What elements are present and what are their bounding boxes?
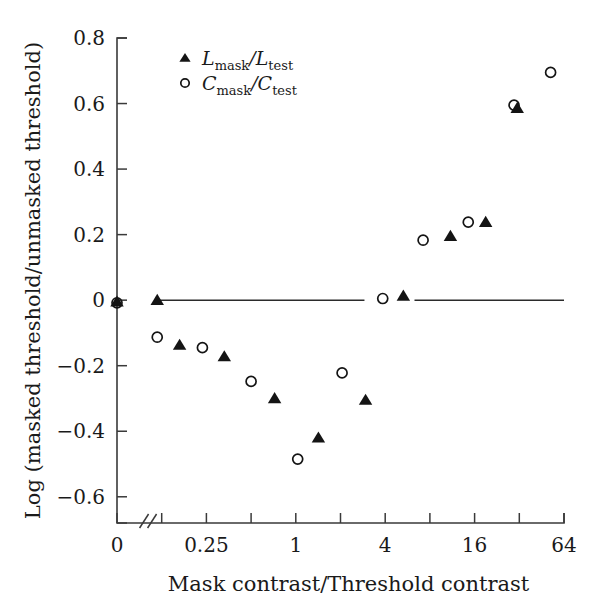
data-point-triangle [173, 339, 186, 350]
data-point-triangle [511, 102, 524, 113]
x-tick-label: 0 [111, 533, 124, 557]
y-tick-label: 0 [92, 288, 105, 312]
x-tick-label: 4 [379, 533, 392, 557]
data-point-circle [293, 454, 303, 464]
data-point-circle [418, 235, 428, 245]
y-tick-label: 0.4 [73, 157, 105, 181]
series-C-ratio [112, 67, 556, 464]
legend-label: Lmask/Ltest [201, 47, 294, 73]
legend-label: Cmask/Ctest [202, 72, 298, 98]
data-point-triangle [268, 392, 281, 403]
x-axis-title: Mask contrast/Threshold contrast [168, 572, 530, 596]
y-axis-title: Log (masked threshold/unmasked threshold… [21, 42, 45, 519]
data-point-circle [546, 67, 556, 77]
axis-break-marker [140, 514, 157, 528]
y-tick-label: −0.6 [56, 485, 105, 509]
legend-marker-triangle [179, 53, 190, 62]
y-tick-label: −0.2 [56, 354, 105, 378]
data-point-triangle [444, 230, 457, 241]
data-point-triangle [397, 290, 410, 301]
data-point-triangle [359, 394, 372, 405]
data-point-triangle [312, 431, 325, 442]
x-tick-label: 64 [551, 533, 576, 557]
data-point-triangle [218, 350, 231, 361]
x-tick-label: 0.25 [184, 533, 229, 557]
legend: Lmask/LtestCmask/Ctest [179, 47, 297, 98]
figure-canvas: 0.80.60.40.20−0.2−0.4−0.600.25141664Lmas… [0, 0, 597, 615]
legend-marker-circle [181, 79, 189, 87]
y-tick-label: 0.8 [73, 26, 105, 50]
data-point-triangle [479, 216, 492, 227]
data-point-circle [197, 343, 207, 353]
x-tick-label: 16 [462, 533, 487, 557]
data-point-circle [152, 332, 162, 342]
axis-frame [117, 38, 564, 523]
data-point-circle [337, 368, 347, 378]
x-ticks: 00.25141664 [111, 513, 577, 557]
y-tick-label: 0.2 [73, 223, 105, 247]
series-L-ratio [110, 102, 524, 443]
y-axis-spine [117, 38, 127, 523]
data-point-triangle [151, 294, 164, 305]
x-tick-label: 1 [289, 533, 302, 557]
legend-entry: Lmask/Ltest [179, 47, 293, 73]
y-tick-label: −0.4 [56, 419, 105, 443]
y-tick-label: 0.6 [73, 92, 105, 116]
data-point-circle [378, 294, 388, 304]
legend-entry: Cmask/Ctest [181, 72, 298, 98]
scatter-plot: 0.80.60.40.20−0.2−0.4−0.600.25141664Lmas… [0, 0, 597, 615]
data-point-circle [463, 217, 473, 227]
data-point-circle [246, 376, 256, 386]
